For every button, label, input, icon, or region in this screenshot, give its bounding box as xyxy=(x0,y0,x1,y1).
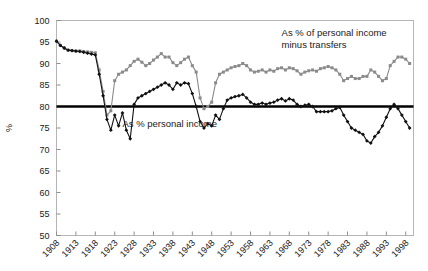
data-point-marker xyxy=(272,70,275,73)
data-point-marker xyxy=(117,73,120,76)
data-point-marker xyxy=(140,61,143,64)
data-point-marker xyxy=(164,56,167,59)
data-point-marker xyxy=(237,64,240,67)
data-point-marker xyxy=(268,68,271,71)
data-point-marker xyxy=(206,105,209,108)
y-tick-label-100: 100 xyxy=(34,16,49,26)
data-point-marker xyxy=(195,71,198,74)
data-point-marker xyxy=(234,65,237,68)
data-point-marker xyxy=(175,64,178,67)
data-point-marker xyxy=(334,68,337,71)
data-point-marker xyxy=(331,66,334,69)
data-point-marker xyxy=(109,109,112,112)
data-point-marker xyxy=(323,66,326,69)
data-point-marker xyxy=(253,71,256,74)
data-point-marker xyxy=(230,66,233,69)
data-point-marker xyxy=(288,66,291,69)
data-point-marker xyxy=(121,71,124,74)
data-point-marker xyxy=(214,81,217,84)
data-point-marker xyxy=(187,56,190,59)
data-point-marker xyxy=(226,68,229,71)
data-point-marker xyxy=(148,62,151,65)
data-point-marker xyxy=(362,75,365,78)
data-point-marker xyxy=(408,62,411,65)
data-point-marker xyxy=(160,52,163,55)
y-tick-label-65: 65 xyxy=(39,166,49,176)
data-point-marker xyxy=(257,70,260,73)
data-point-marker xyxy=(404,58,407,61)
y-tick-label-95: 95 xyxy=(39,37,49,47)
y-tick-label-50: 50 xyxy=(39,231,49,241)
data-point-marker xyxy=(358,77,361,80)
data-point-marker xyxy=(156,56,159,59)
data-point-marker xyxy=(311,68,314,71)
y-tick-label-75: 75 xyxy=(39,123,49,133)
data-point-marker xyxy=(400,56,403,59)
data-point-marker xyxy=(299,73,302,76)
series-label-lower: As % personal income xyxy=(122,118,217,129)
data-point-marker xyxy=(327,65,330,68)
y-axis-title-text: % xyxy=(4,124,14,132)
data-point-marker xyxy=(136,58,139,61)
series-label-upper-line-0: As % of personal income xyxy=(282,27,387,38)
data-point-marker xyxy=(218,73,221,76)
data-point-marker xyxy=(199,96,202,99)
data-point-marker xyxy=(369,68,372,71)
data-point-marker xyxy=(222,71,225,74)
data-point-marker xyxy=(346,77,349,80)
data-point-marker xyxy=(152,59,155,62)
y-tick-label-80: 80 xyxy=(39,102,49,112)
y-tick-label-90: 90 xyxy=(39,59,49,69)
data-point-marker xyxy=(354,77,357,80)
data-point-marker xyxy=(389,64,392,67)
data-point-marker xyxy=(202,107,205,110)
data-point-marker xyxy=(191,64,194,67)
y-tick-label-55: 55 xyxy=(39,209,49,219)
data-point-marker xyxy=(210,101,213,104)
data-point-marker xyxy=(396,56,399,59)
data-point-marker xyxy=(280,66,283,69)
series-label-lower-line-0: As % personal income xyxy=(122,118,217,129)
data-point-marker xyxy=(373,71,376,74)
data-point-marker xyxy=(377,75,380,78)
data-point-marker xyxy=(381,79,384,82)
data-point-marker xyxy=(113,79,116,82)
data-point-marker xyxy=(245,64,248,67)
data-point-marker xyxy=(385,77,388,80)
chart-figure: 50556065707580859095100 1908191319181923… xyxy=(0,0,428,271)
data-point-marker xyxy=(261,68,264,71)
data-point-marker xyxy=(179,61,182,64)
data-point-marker xyxy=(168,56,171,59)
y-tick-label-60: 60 xyxy=(39,188,49,198)
y-axis-title: % xyxy=(4,124,14,132)
data-point-marker xyxy=(265,71,268,74)
data-point-marker xyxy=(249,68,252,71)
data-point-marker xyxy=(292,67,295,70)
data-point-marker xyxy=(338,73,341,76)
data-point-marker xyxy=(342,79,345,82)
y-tick-label-85: 85 xyxy=(39,80,49,90)
data-point-marker xyxy=(303,71,306,74)
y-tick-label-70: 70 xyxy=(39,145,49,155)
data-point-marker xyxy=(133,60,136,63)
data-point-marker xyxy=(296,69,299,72)
data-point-marker xyxy=(350,75,353,78)
data-point-marker xyxy=(393,60,396,63)
data-point-marker xyxy=(171,61,174,64)
data-point-marker xyxy=(284,68,287,71)
series-label-upper-line-1: minus transfers xyxy=(282,39,347,50)
data-point-marker xyxy=(307,69,310,72)
data-point-marker xyxy=(276,67,279,70)
data-point-marker xyxy=(365,75,368,78)
data-point-marker xyxy=(129,64,132,67)
data-point-marker xyxy=(144,64,147,67)
data-point-marker xyxy=(241,62,244,65)
data-point-marker xyxy=(125,68,128,71)
data-point-marker xyxy=(183,58,186,61)
data-point-marker xyxy=(315,70,318,73)
data-point-marker xyxy=(319,67,322,70)
